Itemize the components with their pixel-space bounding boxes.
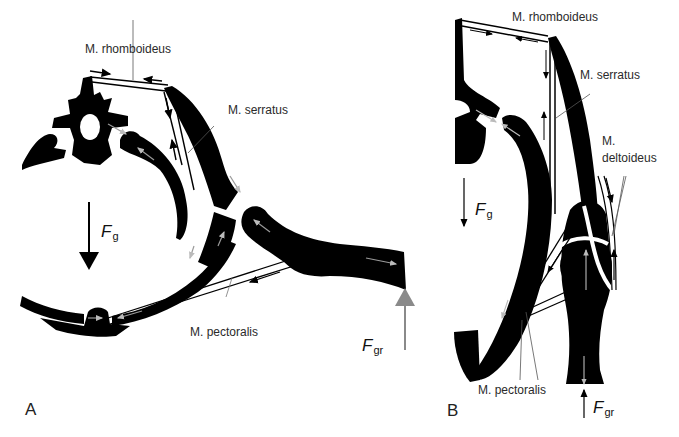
label-deltoideus-b-line2: deltoideus: [602, 151, 657, 165]
label-pectoralis-a: M. pectoralis: [190, 325, 258, 339]
left-rib-head: [22, 134, 66, 170]
label-rhomboideus-a: M. rhomboideus: [85, 42, 171, 56]
rib-b: [470, 115, 552, 380]
force-gravity-b: Fg: [475, 200, 493, 220]
humerus-b: [561, 201, 612, 384]
muscle-rhomboideus-a: [90, 71, 168, 91]
label-pectoralis-b: M. pectoralis: [478, 383, 546, 397]
force-ground-b: Fgr: [593, 398, 614, 418]
anatomy-diagram: [0, 0, 679, 437]
lower-rib-arc: [20, 296, 84, 324]
force-ground-a: Fgr: [362, 336, 383, 356]
panel-label-a: A: [25, 400, 36, 420]
panel-label-b: B: [447, 401, 458, 421]
label-deltoideus-b-line1: M.: [602, 134, 615, 148]
label-serratus-b: M. serratus: [580, 68, 640, 82]
panel-a-drawing: [20, 20, 406, 350]
spinous-process-b: [455, 18, 500, 164]
label-rhomboideus-b: M. rhomboideus: [512, 10, 598, 24]
humerus: [241, 206, 406, 290]
sternum-b: [454, 330, 480, 382]
label-serratus-a: M. serratus: [228, 103, 288, 117]
force-gravity-a: Fg: [101, 222, 119, 242]
